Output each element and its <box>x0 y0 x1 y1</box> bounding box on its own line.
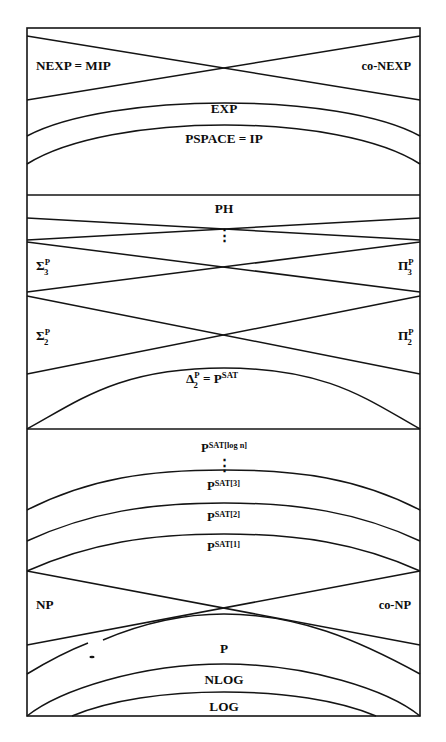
psat-3-superscript: SAT[3] <box>215 479 240 488</box>
sigma3-superscript: P <box>45 257 51 267</box>
label-pspace: PSPACE = IP <box>185 131 263 146</box>
label-psat-1: PSAT[1] <box>207 540 240 555</box>
complexity-diagram: NEXP = MIP co-NEXP EXP PSPACE = IP PH ⋮ … <box>0 0 446 742</box>
label-sigma2p: ΣP2 <box>36 327 51 347</box>
tilde-speck <box>89 656 94 658</box>
label-np: NP <box>36 597 54 612</box>
pi3-subscript: 3 <box>408 267 413 277</box>
sigma2-subscript: 2 <box>44 337 48 347</box>
p-boundary-left <box>27 643 88 674</box>
delta2-suffix-superscript: SAT <box>222 370 238 380</box>
vdots-psat: ⋮ <box>217 457 232 473</box>
label-exp: EXP <box>211 101 237 116</box>
label-nexp: NEXP = MIP <box>36 58 111 73</box>
label-p: P <box>220 641 228 656</box>
delta2-suffix: = P <box>203 371 222 386</box>
label-pi2p: ΠP2 <box>398 327 414 347</box>
label-co-np: co-NP <box>379 598 412 612</box>
label-sigma3p: ΣP3 <box>36 257 51 277</box>
label-pi3p: ΠP3 <box>398 257 414 277</box>
label-psat-2: PSAT[2] <box>207 510 240 525</box>
psat-1-superscript: SAT[1] <box>215 540 240 549</box>
sigma3-subscript: 3 <box>44 267 49 277</box>
delta2-subscript: 2 <box>194 380 198 390</box>
label-co-nexp: co-NEXP <box>361 59 411 73</box>
label-nlog: NLOG <box>205 672 244 687</box>
pi2-superscript: P <box>408 327 414 337</box>
label-psat-logn: PSAT[log n] <box>201 441 247 456</box>
psat3-boundary <box>27 470 420 510</box>
vdots-ph: ⋮ <box>217 227 232 243</box>
sigma2-superscript: P <box>45 327 51 337</box>
complexity-hierarchy-canvas: NEXP = MIP co-NEXP EXP PSPACE = IP PH ⋮ … <box>0 0 446 742</box>
label-delta2p: ΔP2= PSAT <box>186 370 238 390</box>
delta2-superscript: P <box>194 370 200 380</box>
label-ph: PH <box>215 201 234 216</box>
pi2-subscript: 2 <box>408 337 412 347</box>
pi3-superscript: P <box>408 257 414 267</box>
psat-2-superscript: SAT[2] <box>215 510 240 519</box>
label-psat-3: PSAT[3] <box>207 479 240 494</box>
psat-logn-superscript: SAT[log n] <box>209 441 248 450</box>
label-log: LOG <box>209 699 238 714</box>
